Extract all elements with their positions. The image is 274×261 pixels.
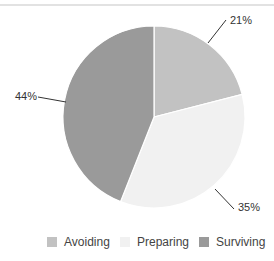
leader-line-surviving <box>38 97 66 102</box>
pie-chart <box>0 0 274 261</box>
label-avoiding: 21% <box>230 14 252 26</box>
legend-label-surviving: Surviving <box>216 235 265 249</box>
legend-item-preparing[interactable]: Preparing <box>120 235 189 249</box>
leader-line-avoiding <box>208 20 226 43</box>
legend: Avoiding Preparing Surviving <box>0 235 274 251</box>
legend-item-avoiding[interactable]: Avoiding <box>47 235 110 249</box>
legend-swatch-surviving <box>199 237 209 247</box>
legend-label-preparing: Preparing <box>137 235 189 249</box>
label-preparing: 35% <box>238 201 260 213</box>
leader-line-preparing <box>215 189 234 209</box>
legend-item-surviving[interactable]: Surviving <box>199 235 265 249</box>
legend-label-avoiding: Avoiding <box>64 235 110 249</box>
legend-swatch-avoiding <box>47 237 57 247</box>
label-surviving: 44% <box>15 90 37 102</box>
pie-slices <box>63 26 245 208</box>
legend-swatch-preparing <box>120 237 130 247</box>
